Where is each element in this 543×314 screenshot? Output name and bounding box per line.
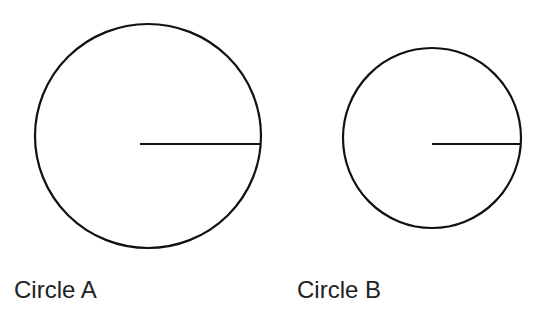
circle-a-label: Circle A	[14, 276, 97, 304]
circle-b-label: Circle B	[297, 276, 381, 304]
diagram-canvas	[0, 0, 543, 314]
circle-a	[35, 24, 261, 248]
circle-b	[343, 48, 521, 228]
